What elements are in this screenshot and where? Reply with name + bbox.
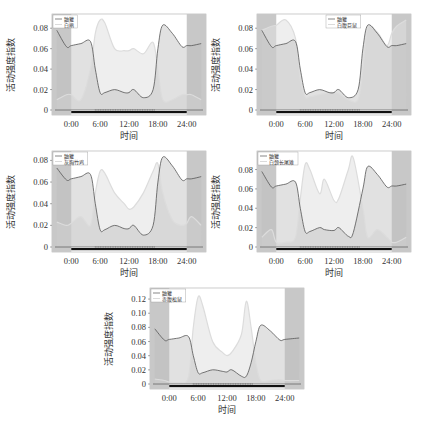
legend: 鼬獾白颈长尾雉 <box>258 152 298 166</box>
x-axis-label: 时间 <box>325 267 343 278</box>
x-tick-label: 12:00 <box>119 256 138 266</box>
chart-svg: 00.020.040.060.080:006:0012:0018:0024:00… <box>205 137 420 274</box>
legend: 鼬獾赤腹松鼠 <box>151 289 186 303</box>
y-tick-label: 0.12 <box>131 294 146 304</box>
y-tick-label: 0.10 <box>131 308 146 318</box>
y-tick-label: 0.04 <box>131 351 147 361</box>
x-axis: 0:006:0012:0018:0024:00 <box>269 119 402 129</box>
x-tick-label: 24:00 <box>382 119 401 129</box>
x-tick-label: 18:00 <box>353 119 372 129</box>
y-tick-label: 0.06 <box>238 184 253 194</box>
y-tick-label: 0.06 <box>131 337 146 347</box>
x-axis: 0:006:0012:0018:0024:00 <box>64 256 197 266</box>
x-tick-label: 18:00 <box>246 393 265 403</box>
legend-species-label: 赤腹松鼠 <box>162 296 182 303</box>
legend-species-label: 白鹇 <box>64 22 74 29</box>
y-axis: 00.020.040.060.08 <box>238 23 257 115</box>
x-tick-label: 18:00 <box>148 119 167 129</box>
x-axis: 0:006:0012:0018:0024:00 <box>269 256 402 266</box>
x-tick-label: 18:00 <box>353 256 372 266</box>
legend: 鼬獾灰胸竹鸡 <box>53 152 88 166</box>
x-tick-label: 6:00 <box>191 393 206 403</box>
y-tick-label: 0 <box>249 242 253 252</box>
legend: 鼬獾白腹巨鼠 <box>326 15 361 29</box>
x-tick-label: 6:00 <box>93 256 108 266</box>
y-tick-label: 0.06 <box>238 44 253 54</box>
chart-svg: 00.020.040.060.080:006:0012:0018:0024:00… <box>0 137 215 274</box>
y-tick-label: 0.02 <box>238 85 253 95</box>
y-tick-label: 0.08 <box>33 155 48 165</box>
x-tick-label: 18:00 <box>148 256 167 266</box>
x-tick-label: 6:00 <box>298 119 313 129</box>
y-axis: 00.020.040.060.080.100.12 <box>131 294 150 389</box>
y-axis-label: 活动强度指数 <box>103 312 114 366</box>
y-tick-label: 0.08 <box>238 23 253 33</box>
y-axis-label: 活动强度指数 <box>210 38 221 92</box>
legend-species-label: 白颈长尾雉 <box>269 159 294 166</box>
x-tick-label: 0:00 <box>162 393 177 403</box>
x-tick-label: 24:00 <box>382 256 401 266</box>
y-tick-label: 0 <box>249 105 253 115</box>
x-tick-label: 0:00 <box>64 119 79 129</box>
panel-1: 00.020.040.060.080:006:0012:0018:0024:00… <box>0 0 215 137</box>
y-tick-label: 0.04 <box>33 64 49 74</box>
y-axis: 00.020.040.060.08 <box>238 165 257 252</box>
y-tick-label: 0.04 <box>238 203 254 213</box>
y-tick-label: 0.08 <box>33 23 48 33</box>
y-axis: 00.020.040.060.08 <box>33 155 52 252</box>
y-axis: 00.020.040.060.08 <box>33 23 52 115</box>
chart-svg: 00.020.040.060.080:006:0012:0018:0024:00… <box>205 0 420 137</box>
panel-4: 00.020.040.060.080:006:0012:0018:0024:00… <box>205 137 420 274</box>
panel-2: 00.020.040.060.080:006:0012:0018:0024:00… <box>205 0 420 137</box>
legend-species-label: 白腹巨鼠 <box>337 22 357 29</box>
y-axis-label: 活动强度指数 <box>5 175 16 229</box>
y-tick-label: 0.02 <box>238 223 253 233</box>
x-tick-label: 12:00 <box>324 256 343 266</box>
y-tick-label: 0.08 <box>131 322 146 332</box>
panel-3: 00.020.040.060.080:006:0012:0018:0024:00… <box>0 137 215 274</box>
x-tick-label: 0:00 <box>269 119 284 129</box>
x-tick-label: 24:00 <box>177 256 196 266</box>
x-tick-label: 6:00 <box>298 256 313 266</box>
y-tick-label: 0 <box>44 105 48 115</box>
y-axis-label: 活动强度指数 <box>210 175 221 229</box>
x-tick-label: 0:00 <box>64 256 79 266</box>
chart-svg: 00.020.040.060.080:006:0012:0018:0024:00… <box>0 0 215 137</box>
x-tick-label: 12:00 <box>119 119 138 129</box>
x-tick-label: 24:00 <box>177 119 196 129</box>
x-tick-label: 6:00 <box>93 119 108 129</box>
legend: 鼬獾白鹇 <box>53 15 77 29</box>
x-axis: 0:006:0012:0018:0024:00 <box>162 393 295 403</box>
y-tick-label: 0.02 <box>131 365 146 375</box>
x-tick-label: 12:00 <box>217 393 236 403</box>
y-tick-label: 0.08 <box>238 165 253 175</box>
x-axis-label: 时间 <box>218 404 236 415</box>
legend-species-label: 灰胸竹鸡 <box>64 159 84 166</box>
x-tick-label: 0:00 <box>269 256 284 266</box>
y-tick-label: 0 <box>142 379 146 389</box>
y-tick-label: 0.04 <box>33 199 49 209</box>
x-axis: 0:006:0012:0018:0024:00 <box>64 119 197 129</box>
y-tick-label: 0 <box>44 242 48 252</box>
panel-5: 00.020.040.060.080.100.120:006:0012:0018… <box>98 274 313 411</box>
y-axis-label: 活动强度指数 <box>5 38 16 92</box>
x-tick-label: 12:00 <box>324 119 343 129</box>
chart-svg: 00.020.040.060.080.100.120:006:0012:0018… <box>98 274 313 411</box>
x-tick-label: 24:00 <box>275 393 294 403</box>
y-tick-label: 0.06 <box>33 44 48 54</box>
y-tick-label: 0.06 <box>33 177 48 187</box>
y-tick-label: 0.04 <box>238 64 254 74</box>
y-tick-label: 0.02 <box>33 85 48 95</box>
y-tick-label: 0.02 <box>33 220 48 230</box>
